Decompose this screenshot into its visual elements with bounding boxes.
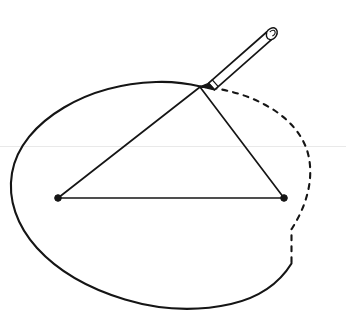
- figure-canvas: Gardener's construction of an ellipse: [0, 0, 346, 326]
- left-focus-dot: [55, 195, 62, 202]
- string-right-segment: [200, 87, 284, 198]
- string-left-segment: [58, 87, 200, 198]
- ellipse-solid-arc: [11, 82, 292, 309]
- ellipse-construction-diagram: [0, 0, 346, 326]
- right-focus-dot: [281, 195, 288, 202]
- pencil-end-cap: [266, 28, 277, 40]
- pencil-icon: [201, 28, 278, 90]
- ellipse-dashed-arc: [201, 87, 311, 264]
- pencil-barrel: [209, 32, 273, 90]
